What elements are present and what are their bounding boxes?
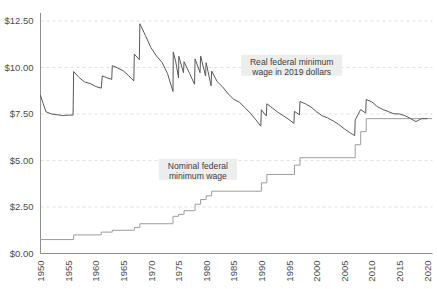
minimum-wage-chart: $0.00$2.50$5.00$7.50$10.00$12.50 1950195…: [0, 0, 437, 289]
x-tick-label: 2005: [339, 261, 350, 282]
x-tick-label: 1960: [90, 261, 101, 282]
x-tick-label: 1950: [35, 261, 46, 282]
x-tick-label: 1955: [63, 261, 74, 282]
real-series-label-line-1: Real federal minimum: [250, 57, 334, 67]
x-tick-label: 2015: [394, 261, 405, 282]
nominal-series-label: Nominal federalminimum wage: [159, 159, 237, 182]
x-tick-label: 1975: [173, 261, 184, 282]
y-axis: $0.00$2.50$5.00$7.50$10.00$12.50: [4, 13, 40, 259]
nominal-series-label-line-2: minimum wage: [169, 171, 227, 181]
x-tick-label: 2000: [311, 261, 322, 282]
x-tick-label: 1965: [118, 261, 129, 282]
x-tick-label: 1985: [228, 261, 239, 282]
nominal-series-label-line-1: Nominal federal: [168, 161, 228, 171]
y-tick-label: $2.50: [10, 201, 34, 212]
chart-canvas: $0.00$2.50$5.00$7.50$10.00$12.50 1950195…: [0, 0, 437, 289]
y-tick-label: $12.50: [4, 15, 33, 26]
x-tick-label: 1990: [256, 261, 267, 282]
y-tick-label: $0.00: [10, 248, 34, 259]
x-axis: 1950195519601965197019751980198519901995…: [35, 254, 432, 282]
real-series-label-line-2: wage in 2019 dollars: [251, 67, 331, 77]
x-tick-label: 1980: [201, 261, 212, 282]
y-tick-label: $5.00: [10, 155, 34, 166]
x-tick-label: 2020: [422, 261, 433, 282]
y-tick-label: $7.50: [10, 108, 34, 119]
x-tick-label: 1995: [284, 261, 295, 282]
y-tick-label: $10.00: [4, 62, 33, 73]
x-tick-label: 1970: [146, 261, 157, 282]
x-tick-label: 2010: [366, 261, 377, 282]
annotations: Real federal minimumwage in 2019 dollars…: [159, 55, 342, 182]
real-series-label: Real federal minimumwage in 2019 dollars: [241, 55, 342, 78]
